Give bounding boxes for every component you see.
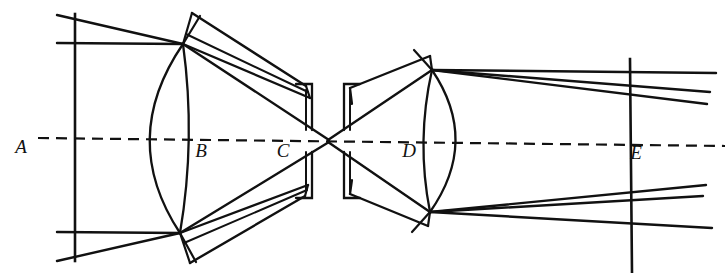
label-E: E (629, 142, 642, 163)
ray-upper-right-stub (414, 50, 432, 70)
label-C: C (277, 140, 290, 161)
optical-ray-diagram-canvas: A B C D E (0, 0, 725, 273)
label-A: A (13, 136, 27, 157)
label-D: D (401, 140, 416, 161)
beam-cap-upper-left (183, 13, 192, 44)
ray-lower-right-stub (412, 212, 430, 232)
label-B: B (195, 140, 207, 161)
exit-rays-group (430, 70, 716, 228)
beam-edge-lower-right-bottom (350, 194, 428, 226)
beam-edge-upper-top (192, 13, 306, 86)
optical-diagram-figure: A B C D E (0, 0, 725, 273)
right-lens-D (423, 70, 455, 212)
beam-edge-upper-inner (186, 34, 308, 92)
upper-left-ray-bundle (183, 13, 329, 140)
ray-upper-left-to-slit-outer (183, 44, 310, 98)
exit-plane-E (630, 59, 632, 273)
beam-edge-lower-inner (184, 190, 307, 243)
beam-edge-lower-bottom (190, 196, 305, 263)
ray-out-upper-3 (432, 70, 707, 104)
beam-edge-upper-right-top (350, 56, 430, 88)
ray-out-lower-3 (430, 212, 712, 228)
ray-lower-left-to-slit-outer (180, 185, 308, 233)
optical-axis (38, 138, 725, 146)
